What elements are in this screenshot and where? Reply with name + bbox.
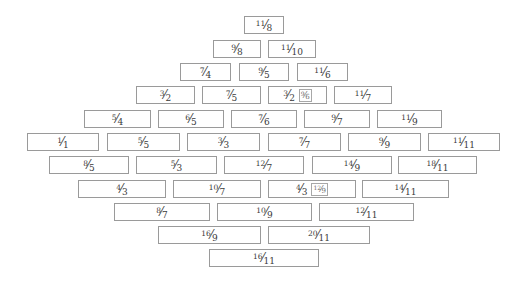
numerator: 11: [453, 137, 463, 145]
denominator: 4: [118, 118, 124, 127]
fraction-box: 12⁄7: [224, 156, 304, 174]
fraction: 9⁄5: [258, 66, 270, 78]
fraction-box: 11⁄7: [334, 86, 392, 104]
fraction: 18⁄11: [426, 159, 448, 171]
numerator: 5: [112, 114, 117, 122]
numerator: 7: [226, 90, 231, 98]
denominator: 7: [337, 118, 343, 127]
numerator: 9: [331, 114, 336, 122]
fraction-box: 14⁄9: [312, 156, 392, 174]
unreduced-fraction-tag: 12⁄9: [311, 183, 328, 196]
fraction-box: 16⁄9: [158, 226, 261, 244]
fraction: 11⁄7: [355, 89, 371, 101]
fraction-box: 8⁄7: [114, 203, 210, 221]
fraction-box: 11⁄9: [377, 110, 442, 128]
fraction-box: 9⁄7: [304, 110, 370, 128]
numerator: 16: [201, 230, 211, 238]
fraction: 11⁄8: [256, 19, 272, 31]
denominator: 9: [322, 186, 326, 197]
denominator: 6: [305, 92, 309, 103]
fraction: 9⁄7: [331, 113, 343, 125]
denominator: 11: [319, 234, 330, 243]
fraction: 12⁄11: [355, 206, 377, 218]
fraction-box: 9⁄8: [213, 40, 261, 58]
numerator: 4: [296, 184, 301, 192]
denominator: 3: [177, 164, 183, 173]
denominator: 3: [122, 188, 128, 197]
numerator: 4: [116, 184, 121, 192]
numerator: 16: [253, 253, 263, 261]
denominator: 2: [289, 94, 295, 103]
numerator: 14: [344, 160, 354, 168]
denominator: 9: [354, 164, 360, 173]
fraction: 10⁄9: [256, 206, 272, 218]
fraction-box: 7⁄6: [231, 110, 297, 128]
denominator: 7: [266, 164, 272, 173]
numerator: 11: [281, 44, 291, 52]
numerator: 6: [185, 114, 190, 122]
fraction-box: 4⁄3: [78, 180, 166, 198]
fraction-box: 7⁄7: [268, 133, 341, 151]
denominator: 5: [89, 164, 95, 173]
denominator: 2: [166, 94, 172, 103]
fraction: 5⁄5: [138, 136, 150, 148]
fraction: 16⁄11: [253, 252, 275, 264]
fraction: 3⁄3: [218, 136, 230, 148]
numerator: 14: [394, 184, 404, 192]
numerator: 1: [57, 137, 62, 145]
fraction: 5⁄4: [112, 113, 124, 125]
fraction: 5⁄3: [171, 159, 183, 171]
numerator: 8: [83, 160, 88, 168]
fraction: 16⁄9: [201, 229, 217, 241]
numerator: 12: [256, 160, 266, 168]
fraction-box: 11⁄8: [244, 16, 284, 34]
denominator: 8: [237, 48, 243, 57]
fraction-box: 5⁄4: [84, 110, 151, 128]
fraction: 11⁄10: [281, 43, 303, 55]
numerator: 7: [258, 114, 263, 122]
fraction: 10⁄7: [209, 183, 225, 195]
denominator: 9: [212, 234, 218, 243]
denominator: 7: [365, 94, 371, 103]
fraction-box: 12⁄11: [319, 203, 414, 221]
denominator: 11: [464, 141, 475, 150]
numerator: 20: [308, 230, 318, 238]
fraction-box: 11⁄10: [268, 40, 316, 58]
denominator: 7: [219, 188, 225, 197]
fraction-box: 7⁄4: [180, 63, 231, 81]
fraction-box: 3⁄29⁄6: [268, 86, 327, 104]
denominator: 5: [144, 141, 150, 150]
numerator: 11: [314, 67, 324, 75]
fraction-box: 3⁄3: [187, 133, 260, 151]
fraction-box: 9⁄5: [239, 63, 289, 81]
numerator: 10: [209, 184, 219, 192]
fraction-box: 7⁄5: [202, 86, 261, 104]
denominator: 11: [437, 164, 448, 173]
denominator: 5: [191, 118, 197, 127]
fraction-box: 10⁄7: [173, 180, 261, 198]
fraction: 11⁄11: [453, 136, 475, 148]
fraction: 20⁄11: [308, 229, 330, 241]
fraction: 7⁄6: [258, 113, 270, 125]
numerator: 18: [426, 160, 436, 168]
fraction-box: 20⁄11: [268, 226, 370, 244]
fraction: 9⁄9: [379, 136, 391, 148]
denominator: 11: [405, 188, 416, 197]
fraction: 1⁄1: [57, 136, 69, 148]
denominator: 9: [385, 141, 391, 150]
denominator: 5: [232, 94, 238, 103]
fraction: 4⁄3: [296, 183, 308, 195]
numerator: 5: [138, 137, 143, 145]
numerator: 3: [160, 90, 165, 98]
fraction-box: 5⁄5: [107, 133, 180, 151]
denominator: 8: [266, 24, 272, 33]
fraction-box: 1⁄1: [27, 133, 99, 151]
fraction: 7⁄7: [299, 136, 311, 148]
fraction: 7⁄4: [200, 66, 212, 78]
numerator: 11: [355, 90, 365, 98]
numerator: 9: [379, 137, 384, 145]
numerator: 12: [355, 207, 365, 215]
denominator: 10: [292, 48, 303, 57]
denominator: 3: [302, 188, 308, 197]
denominator: 9: [412, 118, 418, 127]
